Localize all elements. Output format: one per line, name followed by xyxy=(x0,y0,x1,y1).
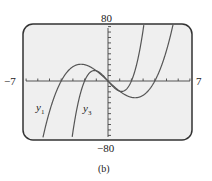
x-max-label: 7 xyxy=(196,76,202,87)
legend-y1: y1 xyxy=(36,102,44,118)
figure-caption: (b) xyxy=(98,163,110,174)
screen-frame xyxy=(23,24,192,140)
legend-y3: y3 xyxy=(83,103,91,119)
x-min-label: −7 xyxy=(4,76,16,87)
y-min-label: −80 xyxy=(97,143,114,154)
y-max-label: 80 xyxy=(101,13,112,24)
